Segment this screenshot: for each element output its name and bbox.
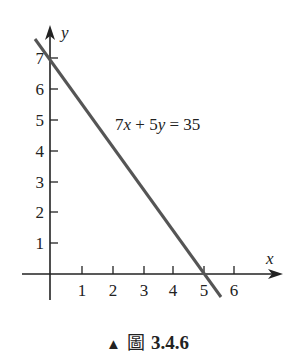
y-tick-label: 4 [36,142,45,161]
x-tick-label: 4 [169,281,178,300]
equation-label: 7x + 5y = 35 [115,115,200,134]
y-tick-label: 1 [36,234,45,253]
x-tick-label: 5 [200,281,209,300]
figure-caption: ▲圖3.4.6 [0,328,295,354]
y-tick-labels: 1 2 3 4 5 6 7 [36,49,45,253]
y-tick-label: 6 [36,80,45,99]
y-axis-label: y [59,23,69,42]
y-tick-label: 5 [36,111,45,130]
x-tick-label: 6 [230,281,239,300]
x-tick-labels: 1 2 3 4 5 6 [78,281,239,300]
triangle-marker-icon: ▲ [106,336,121,352]
x-tick-label: 1 [78,281,87,300]
x-tick-label: 2 [109,281,118,300]
figure-number: 3.4.6 [151,332,189,353]
x-ticks [82,266,234,274]
chart-plot: 1 2 3 4 5 6 7 1 2 3 4 5 6 y x 7x + 5y = … [0,0,295,320]
y-tick-label: 3 [36,173,45,192]
x-tick-label: 3 [140,281,149,300]
caption-prefix: 圖 [127,332,145,353]
equation-line [35,39,221,297]
x-axis-label: x [265,249,274,268]
y-tick-label: 2 [36,203,45,222]
y-ticks [50,58,58,243]
